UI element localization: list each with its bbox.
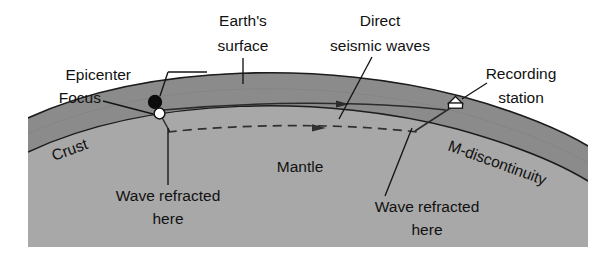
label-wave-refracted-left-line1: Wave refracted (116, 187, 221, 204)
label-mantle: Mantle (277, 158, 324, 175)
label-direct-seismic-waves-line1: Direct (360, 12, 401, 29)
focus-marker-icon (154, 108, 165, 119)
label-wave-refracted-right-line1: Wave refracted (375, 198, 480, 215)
leader-recording-station (462, 83, 487, 99)
label-wave-refracted-right-line2: here (411, 221, 442, 238)
label-direct-seismic-waves-line2: seismic waves (330, 37, 430, 54)
diagram-canvas: Epicenter Focus Earth's surface Direct s… (0, 0, 610, 262)
seismic-wave-diagram: Epicenter Focus Earth's surface Direct s… (0, 0, 610, 262)
label-focus: Focus (59, 89, 101, 106)
epicenter-marker-icon (148, 95, 162, 109)
label-recording-station-line1: Recording (486, 65, 557, 82)
label-recording-station-line2: station (498, 89, 544, 106)
label-earths-surface-line2: surface (218, 37, 269, 54)
label-earths-surface-line1: Earth's (219, 12, 267, 29)
label-epicenter: Epicenter (66, 66, 131, 83)
label-wave-refracted-left-line2: here (152, 210, 183, 227)
